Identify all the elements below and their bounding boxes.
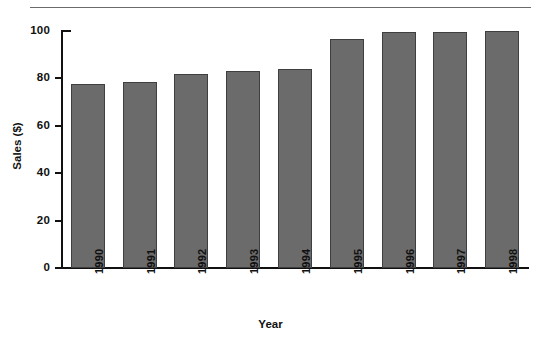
y-axis-tick-label: 60 (4, 120, 50, 132)
x-axis-title: Year (0, 318, 541, 330)
top-divider-rule (30, 7, 531, 8)
x-axis-tick-label: 1992 (196, 249, 208, 274)
x-axis-tick-label: 1998 (507, 249, 519, 274)
y-axis-tick-label: 20 (4, 215, 50, 227)
x-axis-tick-label: 1991 (145, 249, 157, 274)
x-axis-tick-label: 1990 (93, 249, 105, 274)
bar (382, 32, 416, 268)
bar (278, 69, 312, 268)
plot-area (62, 31, 528, 268)
x-axis-tick-label: 1996 (404, 249, 416, 274)
x-axis-tick-label: 1993 (248, 249, 260, 274)
bar (174, 74, 208, 268)
y-axis-title: Sales ($) (11, 91, 23, 201)
bar (71, 84, 105, 268)
y-axis-tick-label: 40 (4, 167, 50, 179)
y-axis-tick-label: 80 (4, 72, 50, 84)
bar (226, 71, 260, 268)
y-axis-tick-label: 100 (4, 25, 50, 37)
bar (330, 39, 364, 268)
bar (123, 82, 157, 268)
bar (485, 31, 519, 268)
x-axis-tick-label: 1995 (352, 249, 364, 274)
x-axis-tick-label: 1997 (455, 249, 467, 274)
bar-chart-figure: Sales ($) 020406080100 19901991199219931… (0, 0, 541, 338)
bar (433, 32, 467, 268)
x-axis-tick-label: 1994 (300, 249, 312, 274)
y-axis-tick-label: 0 (4, 262, 50, 274)
